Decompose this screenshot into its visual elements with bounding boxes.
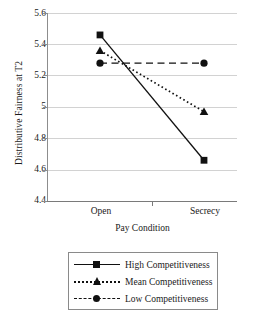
y-axis-tick-labels: 5.6 5.4 5.2 5 4.8 4.6 4.4 <box>17 0 46 235</box>
data-point-circle <box>96 60 103 67</box>
legend-item-mean: Mean Competitiveness <box>74 273 212 290</box>
legend-label: Low Competitiveness <box>125 294 208 304</box>
legend-key-dashed-circle <box>74 293 120 305</box>
legend-label: Mean Competitiveness <box>125 277 212 287</box>
x-tick-label-secrecy: Secrecy <box>170 206 240 216</box>
chart-legend: High Competitiveness Mean Competitivenes… <box>68 252 218 310</box>
x-tick-mark <box>152 202 153 206</box>
data-point-triangle <box>96 46 105 54</box>
chart-figure: Distributive Fairness at T2 5.6 5.4 5.2 … <box>0 0 267 317</box>
x-tick-label-open: Open <box>66 206 136 216</box>
data-point-square <box>201 157 208 164</box>
series-line-square <box>100 35 204 160</box>
series-line-triangle <box>100 51 204 112</box>
legend-item-high: High Competitiveness <box>74 256 210 273</box>
data-point-triangle <box>200 108 209 116</box>
plot-area <box>48 13 237 201</box>
legend-key-solid-square <box>74 259 120 271</box>
legend-item-low: Low Competitiveness <box>74 290 208 307</box>
x-axis-title: Pay Condition <box>48 223 237 233</box>
legend-key-dotted-triangle <box>74 276 120 288</box>
x-axis-line <box>47 201 237 202</box>
data-point-square <box>97 32 104 39</box>
data-point-circle <box>200 60 207 67</box>
data-series-layer <box>48 13 237 201</box>
legend-label: High Competitiveness <box>125 260 210 270</box>
